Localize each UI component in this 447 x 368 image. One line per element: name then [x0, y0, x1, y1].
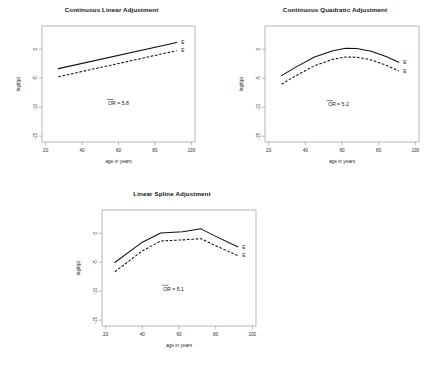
x-tick-label: 40 [303, 148, 309, 153]
series-end-label: E [242, 253, 245, 258]
y-tick-label: -10 [93, 287, 98, 294]
y-tick-label: 0 [256, 47, 261, 50]
chart-panel: Continuous Linear Adjustment20406080100a… [0, 0, 223, 184]
y-tick-label: -10 [33, 103, 38, 110]
x-axis-title: age in years [105, 159, 132, 164]
y-tick-label: -15 [256, 132, 261, 139]
series-end-label: E [403, 60, 406, 65]
x-axis-title: age in years [166, 343, 193, 348]
plot-area: 20406080100age in years0-5-10-15logit(p)… [223, 0, 447, 184]
y-tick-label: 0 [33, 47, 38, 50]
odds-ratio-annotation: OR = 5.1 [163, 286, 184, 292]
series-end-label: E [181, 48, 184, 53]
series-curve [282, 48, 399, 75]
x-tick-label: 100 [188, 148, 196, 153]
plot-area: 20406080100age in years0-5-10-15logit(p)… [60, 184, 284, 368]
x-tick-label: 80 [213, 332, 219, 337]
x-tick-label: 80 [152, 148, 158, 153]
x-tick-label: 40 [80, 148, 86, 153]
y-axis-title: logit(p) [16, 76, 21, 91]
x-tick-label: 60 [176, 332, 182, 337]
series-curve [58, 51, 176, 77]
series-end-label: E [403, 69, 406, 74]
x-axis-title: age in years [329, 159, 356, 164]
odds-ratio-annotation: OR = 5.8 [108, 100, 129, 106]
y-tick-label: -5 [33, 76, 38, 81]
y-axis-title: logit(p) [76, 260, 81, 275]
odds-ratio-annotation: OR = 5.2 [328, 101, 349, 107]
y-tick-label: -15 [93, 316, 98, 323]
y-tick-label: -15 [33, 132, 38, 139]
series-curve [58, 43, 176, 69]
y-tick-label: -5 [93, 260, 98, 265]
x-tick-label: 60 [339, 148, 345, 153]
x-tick-label: 60 [116, 148, 122, 153]
x-tick-label: 20 [103, 332, 109, 337]
y-axis-title: logit(p) [239, 76, 244, 91]
plot-box [265, 26, 419, 142]
x-tick-label: 100 [411, 148, 419, 153]
series-curve [115, 239, 238, 272]
plot-area: 20406080100age in years0-5-10-15logit(p)… [0, 0, 223, 184]
x-tick-label: 20 [266, 148, 272, 153]
chart-panel: Continuous Quadratic Adjustment204060801… [223, 0, 447, 184]
plot-box [102, 210, 256, 326]
y-tick-label: -5 [256, 76, 261, 81]
series-end-label: E [242, 245, 245, 250]
series-end-label: E [181, 40, 184, 45]
x-tick-label: 100 [248, 332, 256, 337]
x-tick-label: 80 [376, 148, 382, 153]
y-tick-label: 0 [93, 231, 98, 234]
chart-panel: Linear Spline Adjustment20406080100age i… [60, 184, 284, 368]
x-tick-label: 20 [43, 148, 49, 153]
figure-canvas: Continuous Linear Adjustment20406080100a… [0, 0, 447, 368]
y-tick-label: -10 [256, 103, 261, 110]
x-tick-label: 40 [140, 332, 146, 337]
series-curve [282, 57, 399, 84]
